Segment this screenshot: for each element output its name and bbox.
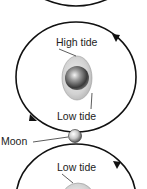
moon-icon	[69, 130, 82, 143]
moon	[33, 130, 82, 143]
low-tide-lower-leader	[62, 174, 73, 183]
low-tide-leader	[91, 93, 92, 109]
tide-diagram: High tide Low tide Moon Low tide	[0, 0, 147, 189]
label-moon: Moon	[1, 135, 27, 147]
orbit-arrow-icon	[113, 161, 121, 169]
label-low-tide-lower: Low tide	[57, 161, 96, 173]
label-low-tide-upper: Low tide	[57, 110, 96, 122]
earth-icon	[65, 66, 89, 90]
tidal-bulge-lower	[62, 183, 94, 189]
top-orbit-fragment	[42, 0, 110, 6]
moon-leader	[33, 137, 68, 142]
label-high-tide: High tide	[56, 36, 98, 48]
high-tide-leader	[59, 49, 76, 56]
earth-with-tidal-bulge	[62, 56, 92, 100]
